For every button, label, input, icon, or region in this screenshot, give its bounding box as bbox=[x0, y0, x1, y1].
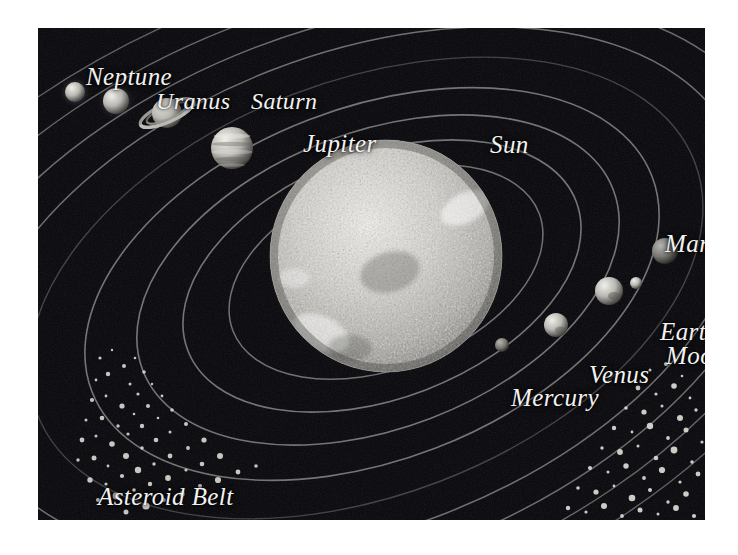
solar-system-figure: Neptune Uranus Saturn Jupiter Sun Mars E… bbox=[0, 0, 738, 555]
label-sun: Sun bbox=[490, 132, 529, 158]
label-moon: Moon bbox=[666, 343, 705, 369]
moon bbox=[630, 277, 642, 289]
earth-disc bbox=[595, 277, 623, 305]
venus-disc bbox=[544, 313, 568, 337]
planet-venus bbox=[544, 313, 568, 337]
solar-system-canvas bbox=[38, 28, 705, 520]
label-asteroid-belt: Asteroid Belt bbox=[98, 484, 234, 510]
sun-prominence-left bbox=[278, 268, 310, 288]
label-mercury: Mercury bbox=[511, 385, 599, 411]
planet-mercury bbox=[495, 338, 509, 352]
label-saturn: Saturn bbox=[251, 89, 317, 114]
uranus-disc bbox=[103, 88, 129, 114]
sun-body bbox=[254, 124, 518, 388]
label-jupiter: Jupiter bbox=[303, 131, 377, 157]
planet-earth bbox=[595, 277, 623, 305]
jupiter-disc bbox=[211, 127, 253, 169]
planet-jupiter bbox=[211, 127, 253, 169]
label-mars: Mars bbox=[665, 231, 705, 257]
label-uranus: Uranus bbox=[156, 89, 230, 114]
venus-surface-mark bbox=[555, 327, 565, 334]
earth-surface-mark bbox=[608, 292, 620, 300]
label-neptune: Neptune bbox=[86, 64, 172, 90]
moon-disc bbox=[630, 277, 642, 289]
neptune-disc bbox=[65, 82, 85, 102]
mercury-disc bbox=[495, 338, 509, 352]
diagram-panel: Neptune Uranus Saturn Jupiter Sun Mars E… bbox=[38, 28, 705, 520]
